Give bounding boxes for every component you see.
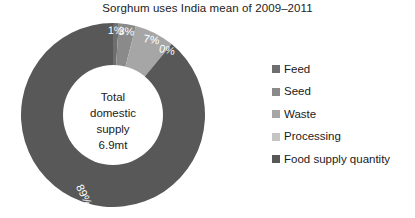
legend-swatch-icon [272,155,280,163]
slice-data-label: 7% [143,32,161,46]
chart-legend: FeedSeedWasteProcessingFood supply quant… [272,58,415,171]
center-text-line-4: 6.9mt [99,139,129,151]
donut-chart-plot-area: 1%3%7%0%89% Total domestic supply 6.9mt [21,23,205,207]
center-text-line-3: supply [96,123,129,135]
legend-item-label: Food supply quantity [284,154,390,166]
legend-swatch-icon [272,110,280,118]
legend-swatch-icon [272,133,280,141]
center-text-line-1: Total [101,91,125,103]
donut-svg: 1%3%7%0%89% Total domestic supply 6.9mt [21,23,205,207]
donut-chart-figure: Sorghum uses India mean of 2009–2011 1%3… [0,0,415,218]
legend-item[interactable]: Seed [272,81,415,104]
legend-item-label: Waste [284,109,316,121]
center-text-line-2: domestic [90,107,136,119]
legend-item[interactable]: Waste [272,103,415,126]
legend-item[interactable]: Food supply quantity [272,148,415,171]
legend-item[interactable]: Feed [272,58,415,81]
legend-item-label: Feed [284,64,310,76]
chart-title: Sorghum uses India mean of 2009–2011 [0,2,415,14]
legend-swatch-icon [272,88,280,96]
legend-swatch-icon [272,65,280,73]
legend-item[interactable]: Processing [272,126,415,149]
legend-item-label: Processing [284,131,341,143]
slice-data-label: 3% [118,25,135,38]
legend-item-label: Seed [284,86,311,98]
